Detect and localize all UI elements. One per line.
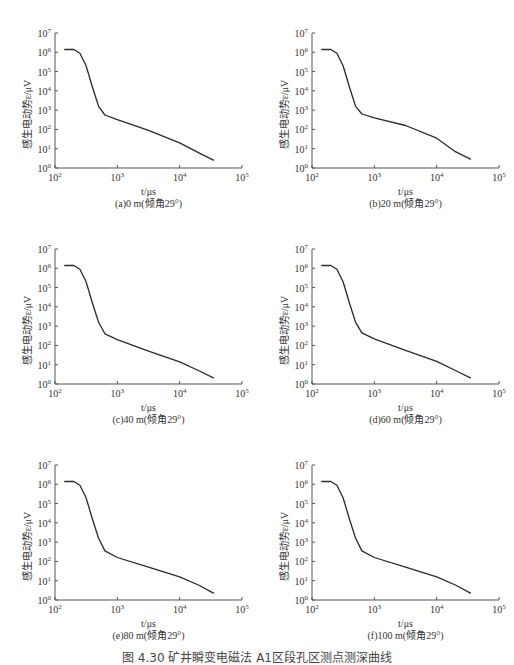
- svg-text:105: 105: [38, 66, 52, 78]
- svg-text:105: 105: [235, 603, 249, 615]
- chart-title: (b)20 m(倾角29°): [369, 197, 442, 210]
- svg-text:101: 101: [295, 359, 309, 371]
- svg-text:103: 103: [368, 171, 382, 183]
- chart-panel-d: 102103104105100101102103104105106107t/μs…: [257, 216, 514, 436]
- svg-text:103: 103: [368, 603, 382, 615]
- figure-caption: 图 4.30 矿井瞬变电磁法 A1区段孔区测点测深曲线: [0, 648, 514, 665]
- svg-text:107: 107: [295, 243, 309, 255]
- svg-text:106: 106: [38, 478, 52, 490]
- y-axis-label: 感生电动势ε/μV: [21, 79, 33, 149]
- svg-text:102: 102: [305, 603, 319, 615]
- svg-text:102: 102: [48, 171, 62, 183]
- svg-text:104: 104: [430, 171, 444, 183]
- svg-text:102: 102: [295, 339, 309, 351]
- svg-text:104: 104: [38, 517, 52, 529]
- svg-text:103: 103: [295, 536, 309, 548]
- svg-text:103: 103: [38, 536, 52, 548]
- svg-text:104: 104: [430, 387, 444, 399]
- axes: [55, 249, 242, 384]
- svg-text:102: 102: [305, 387, 319, 399]
- svg-text:107: 107: [295, 27, 309, 39]
- svg-text:102: 102: [305, 171, 319, 183]
- svg-text:104: 104: [173, 171, 187, 183]
- svg-text:106: 106: [295, 478, 309, 490]
- svg-text:105: 105: [295, 282, 309, 294]
- tick-labels: 102103104105100101102103104105106107: [38, 243, 250, 399]
- svg-text:102: 102: [48, 603, 62, 615]
- tick-labels: 102103104105100101102103104105106107: [295, 27, 507, 183]
- svg-text:106: 106: [295, 46, 309, 58]
- svg-text:104: 104: [430, 603, 444, 615]
- svg-text:105: 105: [492, 171, 506, 183]
- svg-text:104: 104: [173, 387, 187, 399]
- svg-text:101: 101: [38, 575, 52, 587]
- svg-text:105: 105: [38, 498, 52, 510]
- chart-title: (c)40 m(倾角29°): [112, 413, 184, 426]
- data-line: [64, 482, 214, 594]
- tick-labels: 102103104105100101102103104105106107: [295, 459, 507, 615]
- x-axis-label: t/μs: [398, 402, 413, 413]
- svg-text:101: 101: [295, 575, 309, 587]
- svg-text:101: 101: [38, 359, 52, 371]
- svg-text:105: 105: [295, 66, 309, 78]
- svg-text:104: 104: [38, 85, 52, 97]
- svg-text:103: 103: [295, 320, 309, 332]
- chart-title: (f)100 m(倾角29°): [368, 629, 444, 642]
- x-axis-label: t/μs: [398, 618, 413, 629]
- svg-text:105: 105: [235, 387, 249, 399]
- x-axis-label: t/μs: [141, 402, 156, 413]
- data-line: [321, 50, 471, 160]
- tick-labels: 102103104105100101102103104105106107: [38, 459, 250, 615]
- svg-text:107: 107: [38, 459, 52, 471]
- y-axis-label: 感生电动势ε/μV: [21, 295, 33, 365]
- svg-text:103: 103: [368, 387, 382, 399]
- svg-text:101: 101: [38, 143, 52, 155]
- chart-panel-b: 102103104105100101102103104105106107t/μs…: [257, 0, 514, 220]
- svg-text:103: 103: [111, 171, 125, 183]
- svg-text:104: 104: [295, 517, 309, 529]
- svg-text:105: 105: [38, 282, 52, 294]
- svg-text:105: 105: [492, 387, 506, 399]
- svg-text:102: 102: [295, 123, 309, 135]
- svg-text:103: 103: [38, 320, 52, 332]
- svg-text:103: 103: [38, 104, 52, 116]
- data-line: [64, 266, 214, 379]
- tick-labels: 102103104105100101102103104105106107: [38, 27, 250, 183]
- y-axis-label: 感生电动势ε/μV: [278, 295, 290, 365]
- svg-text:106: 106: [38, 46, 52, 58]
- svg-text:104: 104: [38, 301, 52, 313]
- axes: [55, 465, 242, 600]
- chart-panel-e: 102103104105100101102103104105106107t/μs…: [0, 432, 257, 652]
- data-line: [321, 266, 471, 379]
- chart-panel-f: 102103104105100101102103104105106107t/μs…: [257, 432, 514, 652]
- tick-labels: 102103104105100101102103104105106107: [295, 243, 507, 399]
- svg-text:106: 106: [38, 262, 52, 274]
- y-axis-label: 感生电动势ε/μV: [278, 511, 290, 581]
- svg-text:105: 105: [235, 171, 249, 183]
- data-line: [64, 50, 214, 161]
- svg-text:102: 102: [48, 387, 62, 399]
- svg-text:102: 102: [38, 555, 52, 567]
- svg-text:104: 104: [295, 85, 309, 97]
- svg-text:103: 103: [295, 104, 309, 116]
- x-axis-label: t/μs: [141, 618, 156, 629]
- axes: [312, 249, 499, 384]
- svg-text:105: 105: [492, 603, 506, 615]
- axes: [312, 465, 499, 600]
- svg-text:102: 102: [38, 123, 52, 135]
- svg-text:107: 107: [38, 243, 52, 255]
- svg-text:104: 104: [295, 301, 309, 313]
- x-axis-label: t/μs: [398, 186, 413, 197]
- chart-title: (d)60 m(倾角29°): [369, 413, 442, 426]
- chart-panel-c: 102103104105100101102103104105106107t/μs…: [0, 216, 257, 436]
- svg-text:104: 104: [173, 603, 187, 615]
- svg-text:103: 103: [111, 603, 125, 615]
- x-axis-label: t/μs: [141, 186, 156, 197]
- svg-text:102: 102: [38, 339, 52, 351]
- svg-text:107: 107: [295, 459, 309, 471]
- svg-text:106: 106: [295, 262, 309, 274]
- svg-text:105: 105: [295, 498, 309, 510]
- svg-text:107: 107: [38, 27, 52, 39]
- chart-title: (e)80 m(倾角29°): [112, 629, 184, 642]
- y-axis-label: 感生电动势ε/μV: [278, 79, 290, 149]
